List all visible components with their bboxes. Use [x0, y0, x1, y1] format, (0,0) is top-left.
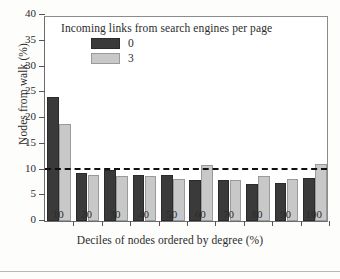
x-tick-label-100: 100	[294, 208, 334, 220]
y-tick-label-40: 40	[25, 7, 36, 19]
legend-item-0: 0	[91, 37, 311, 49]
x-tick-20	[102, 221, 103, 226]
y-tick-5: 5	[39, 194, 45, 195]
y-tick-label-10: 10	[25, 162, 36, 174]
legend-swatch-icon-series-3	[91, 53, 120, 64]
x-tick-70	[244, 221, 245, 226]
y-tick-20: 20	[39, 117, 45, 118]
reference-line-10-percent	[45, 168, 327, 170]
legend-label-series-0: 0	[128, 37, 134, 49]
x-tick-10	[73, 221, 74, 226]
y-tick-label-35: 35	[25, 33, 36, 45]
legend-swatch-icon-series-0	[91, 38, 120, 49]
y-tick-label-30: 30	[25, 59, 36, 71]
x-tick-60	[215, 221, 216, 226]
y-tick-40: 40	[39, 14, 45, 15]
y-tick-label-15: 15	[25, 136, 36, 148]
legend-title: Incoming links from search engines per p…	[61, 22, 311, 34]
x-tick-100	[329, 221, 330, 226]
x-tick-40	[159, 221, 160, 226]
y-tick-30: 30	[39, 66, 45, 67]
legend: Incoming links from search engines per p…	[61, 22, 311, 64]
y-tick-label-0: 0	[31, 213, 37, 225]
y-tick-25: 25	[39, 91, 45, 92]
legend-label-series-3: 3	[128, 52, 134, 64]
y-tick-label-25: 25	[25, 84, 36, 96]
x-axis-title: Deciles of nodes ordered by degree (%)	[0, 234, 340, 246]
y-tick-0: 0	[39, 220, 45, 221]
bar-decile-10-series-3	[59, 124, 71, 221]
y-tick-15: 15	[39, 143, 45, 144]
scan-edge-rule	[0, 271, 340, 272]
y-tick-label-5: 5	[31, 187, 37, 199]
y-tick-35: 35	[39, 40, 45, 41]
x-tick-90	[301, 221, 302, 226]
figure: Nodes from walk (%) 0510152025303540 102…	[0, 0, 340, 279]
y-tick-label-20: 20	[25, 110, 36, 122]
legend-item-3: 3	[91, 52, 311, 64]
bar-decile-10-series-0	[47, 97, 59, 221]
x-tick-50	[187, 221, 188, 226]
x-tick-30	[130, 221, 131, 226]
x-tick-80	[272, 221, 273, 226]
